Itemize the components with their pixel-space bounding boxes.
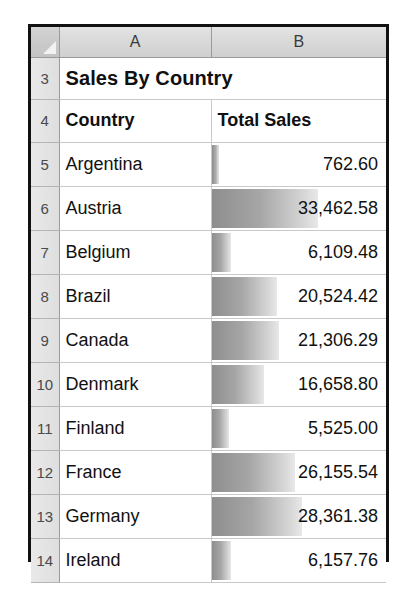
country-cell[interactable]: Germany bbox=[59, 494, 211, 538]
country-cell[interactable]: Argentina bbox=[59, 142, 211, 186]
total-sales-value: 26,155.54 bbox=[212, 451, 387, 494]
total-sales-value: 16,658.80 bbox=[212, 363, 387, 406]
row-header-3[interactable]: 3 bbox=[31, 57, 59, 99]
table-row: 13Germany28,361.38 bbox=[31, 494, 386, 538]
country-cell[interactable]: Austria bbox=[59, 186, 211, 230]
row-header-12[interactable]: 12 bbox=[31, 450, 59, 494]
total-sales-value: 20,524.42 bbox=[212, 275, 387, 318]
total-sales-cell[interactable]: 16,658.80 bbox=[211, 362, 386, 406]
total-sales-value: 6,157.76 bbox=[212, 539, 387, 582]
total-sales-cell[interactable]: 5,525.00 bbox=[211, 406, 386, 450]
row-header-10[interactable]: 10 bbox=[31, 362, 59, 406]
total-sales-value: 33,462.58 bbox=[212, 187, 387, 230]
select-all-triangle-icon bbox=[43, 41, 56, 54]
table-row: 9Canada21,306.29 bbox=[31, 318, 386, 362]
country-cell[interactable]: Finland bbox=[59, 406, 211, 450]
row-header-14[interactable]: 14 bbox=[31, 538, 59, 582]
country-cell[interactable]: Belgium bbox=[59, 230, 211, 274]
sheet-title[interactable]: Sales By Country bbox=[59, 57, 386, 99]
total-sales-value: 762.60 bbox=[212, 143, 387, 186]
column-header-b[interactable]: B bbox=[211, 27, 386, 57]
country-cell[interactable]: France bbox=[59, 450, 211, 494]
row-header-6[interactable]: 6 bbox=[31, 186, 59, 230]
total-sales-cell[interactable]: 762.60 bbox=[211, 142, 386, 186]
title-row: 3 Sales By Country bbox=[31, 57, 386, 99]
table-row: 6Austria33,462.58 bbox=[31, 186, 386, 230]
column-header-row: A B bbox=[31, 27, 386, 57]
column-header-a[interactable]: A bbox=[59, 27, 211, 57]
select-all-corner[interactable] bbox=[31, 27, 59, 57]
total-sales-cell[interactable]: 21,306.29 bbox=[211, 318, 386, 362]
table-row: 14Ireland6,157.76 bbox=[31, 538, 386, 582]
total-sales-cell[interactable]: 28,361.38 bbox=[211, 494, 386, 538]
row-header-5[interactable]: 5 bbox=[31, 142, 59, 186]
spreadsheet-grid[interactable]: A B 3 Sales By Country 4 Country Total S… bbox=[28, 24, 389, 562]
total-sales-value: 28,361.38 bbox=[212, 495, 387, 538]
country-cell[interactable]: Denmark bbox=[59, 362, 211, 406]
row-header-13[interactable]: 13 bbox=[31, 494, 59, 538]
table-row: 5Argentina762.60 bbox=[31, 142, 386, 186]
table-row: 11Finland5,525.00 bbox=[31, 406, 386, 450]
column-label-country[interactable]: Country bbox=[59, 99, 211, 142]
total-sales-cell[interactable]: 26,155.54 bbox=[211, 450, 386, 494]
total-sales-cell[interactable]: 20,524.42 bbox=[211, 274, 386, 318]
total-sales-value: 6,109.48 bbox=[212, 231, 387, 274]
country-cell[interactable]: Brazil bbox=[59, 274, 211, 318]
table-body: A B 3 Sales By Country 4 Country Total S… bbox=[31, 27, 386, 582]
country-cell[interactable]: Ireland bbox=[59, 538, 211, 582]
sales-by-country-table: A B 3 Sales By Country 4 Country Total S… bbox=[31, 27, 386, 583]
table-row: 8Brazil20,524.42 bbox=[31, 274, 386, 318]
total-sales-cell[interactable]: 6,109.48 bbox=[211, 230, 386, 274]
country-cell[interactable]: Canada bbox=[59, 318, 211, 362]
total-sales-value: 5,525.00 bbox=[212, 407, 387, 450]
total-sales-cell[interactable]: 33,462.58 bbox=[211, 186, 386, 230]
column-label-total-sales[interactable]: Total Sales bbox=[211, 99, 386, 142]
row-header-4[interactable]: 4 bbox=[31, 99, 59, 142]
row-header-8[interactable]: 8 bbox=[31, 274, 59, 318]
header-row: 4 Country Total Sales bbox=[31, 99, 386, 142]
table-row: 12France26,155.54 bbox=[31, 450, 386, 494]
row-header-7[interactable]: 7 bbox=[31, 230, 59, 274]
row-header-11[interactable]: 11 bbox=[31, 406, 59, 450]
table-row: 10Denmark16,658.80 bbox=[31, 362, 386, 406]
table-row: 7Belgium6,109.48 bbox=[31, 230, 386, 274]
total-sales-value: 21,306.29 bbox=[212, 319, 387, 362]
row-header-9[interactable]: 9 bbox=[31, 318, 59, 362]
total-sales-cell[interactable]: 6,157.76 bbox=[211, 538, 386, 582]
